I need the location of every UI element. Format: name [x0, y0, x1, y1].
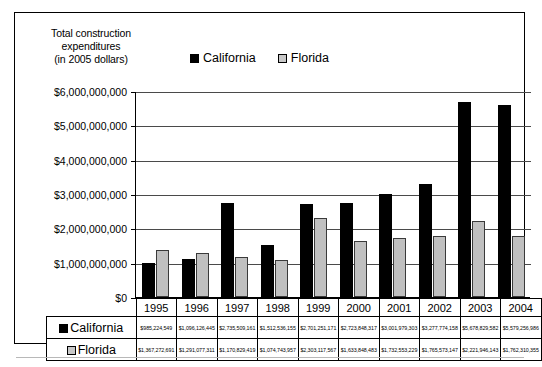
- bar-florida-1999: [314, 218, 327, 297]
- chart-title-line-3: (in 2005 dollars): [31, 53, 151, 66]
- chart-title-line-2: expenditures: [31, 40, 151, 53]
- legend-item-florida: Florida: [278, 51, 329, 65]
- table-header-year: 2002: [420, 299, 461, 317]
- bar-california-2004: [498, 105, 511, 297]
- table-cell-value: $3,277,774,158: [420, 317, 461, 339]
- table-header-year: 1999: [298, 299, 339, 317]
- bar-california-2001: [379, 194, 392, 297]
- table-header-year: 2003: [460, 299, 501, 317]
- table-corner-cell: [47, 299, 137, 317]
- bar-florida-2004: [512, 236, 525, 297]
- plot-wrapper: $6,000,000,000$5,000,000,000$4,000,000,0…: [135, 92, 530, 298]
- bar-florida-2000: [354, 241, 367, 297]
- bar-california-1998: [261, 245, 274, 297]
- legend-swatch-florida-icon: [278, 54, 287, 63]
- table-header-year: 2000: [339, 299, 380, 317]
- table-cell-value: $1,512,536,155: [258, 317, 299, 339]
- chart-title: Total construction expenditures (in 2005…: [31, 27, 151, 66]
- bar-california-1997: [221, 203, 234, 297]
- bar-group: [255, 91, 295, 297]
- table-header-year: 1995: [136, 299, 177, 317]
- table-rowlabel-california-text: California: [70, 321, 123, 335]
- table-swatch-florida-icon: [67, 346, 76, 355]
- bar-group: [492, 91, 532, 297]
- bar-florida-1995: [156, 250, 169, 297]
- table-rowlabel-california: California: [47, 317, 137, 339]
- bar-florida-1997: [235, 257, 248, 297]
- bar-florida-1996: [196, 253, 209, 297]
- legend-label-california: California: [203, 51, 256, 65]
- bar-florida-2002: [433, 236, 446, 297]
- table-header-year: 2004: [501, 299, 542, 317]
- table-rowlabel-florida-text: Florida: [78, 343, 116, 357]
- bar-california-2003: [458, 102, 471, 297]
- bar-group: [373, 91, 413, 297]
- table-cell-value: $2,701,251,171: [298, 317, 339, 339]
- table-cell-value: $2,735,509,161: [217, 317, 258, 339]
- y-axis-tick-label: $1,000,000,000: [54, 258, 127, 270]
- table-cell-value: $5,579,256,986: [501, 317, 542, 339]
- plot-area: [135, 92, 530, 298]
- chart-legend: California Florida: [190, 51, 329, 65]
- bar-group: [294, 91, 334, 297]
- table-cell-value: $5,678,829,582: [460, 317, 501, 339]
- legend-item-california: California: [190, 51, 256, 65]
- y-axis-tick-label: $3,000,000,000: [54, 189, 127, 201]
- table-row-california: California $985,224,549$1,096,126,445$2,…: [47, 317, 542, 339]
- table-header-year: 2001: [379, 299, 420, 317]
- y-axis-tick-label: $4,000,000,000: [54, 155, 127, 167]
- bar-florida-2003: [472, 221, 485, 297]
- bar-group: [413, 91, 453, 297]
- table-cell-value: $2,723,848,317: [339, 317, 380, 339]
- table-header-year: 1998: [258, 299, 299, 317]
- bar-california-2000: [340, 203, 353, 297]
- bar-group: [452, 91, 492, 297]
- bar-california-1995: [142, 263, 155, 297]
- bar-california-2002: [419, 184, 432, 297]
- bar-group: [334, 91, 374, 297]
- table-header-year: 1997: [217, 299, 258, 317]
- legend-label-florida: Florida: [291, 51, 329, 65]
- y-axis-tick-label: $6,000,000,000: [54, 86, 127, 98]
- table-row-header: 1995199619971998199920002001200220032004: [47, 299, 542, 317]
- y-axis-tick-label: $5,000,000,000: [54, 120, 127, 132]
- chart-title-line-1: Total construction: [31, 27, 151, 40]
- y-axis-tick-label: $2,000,000,000: [54, 223, 127, 235]
- bar-california-1999: [300, 204, 313, 297]
- bar-group: [136, 91, 176, 297]
- bar-california-1996: [182, 259, 195, 297]
- table-swatch-california-icon: [59, 324, 68, 333]
- table-cell-value: $985,224,549: [136, 317, 177, 339]
- table-cell-value: $3,001,979,303: [379, 317, 420, 339]
- data-table: 1995199619971998199920002001200220032004…: [46, 298, 542, 361]
- figure-bottom-rule: [16, 357, 524, 358]
- chart-frame: Total construction expenditures (in 2005…: [14, 12, 525, 344]
- bar-group: [215, 91, 255, 297]
- table-header-year: 1996: [177, 299, 218, 317]
- legend-swatch-california-icon: [190, 54, 199, 63]
- bar-florida-2001: [393, 238, 406, 297]
- table-cell-value: $1,096,126,445: [177, 317, 218, 339]
- bar-group: [176, 91, 216, 297]
- bar-florida-1998: [275, 260, 288, 297]
